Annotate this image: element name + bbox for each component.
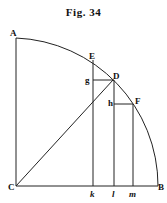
label-k: k: [90, 189, 95, 199]
label-B: B: [158, 182, 164, 192]
label-E: E: [89, 51, 95, 61]
line-CD: [16, 80, 113, 186]
label-g: g: [85, 75, 90, 85]
label-F: F: [135, 96, 141, 106]
label-C: C: [8, 182, 15, 192]
geometry-diagram: A C B E D F g h k l m: [0, 0, 167, 203]
label-l: l: [112, 189, 115, 199]
label-h: h: [108, 98, 113, 108]
label-A: A: [10, 28, 17, 38]
arc-AB: [16, 38, 158, 186]
label-m: m: [129, 189, 136, 199]
label-D: D: [113, 71, 120, 81]
